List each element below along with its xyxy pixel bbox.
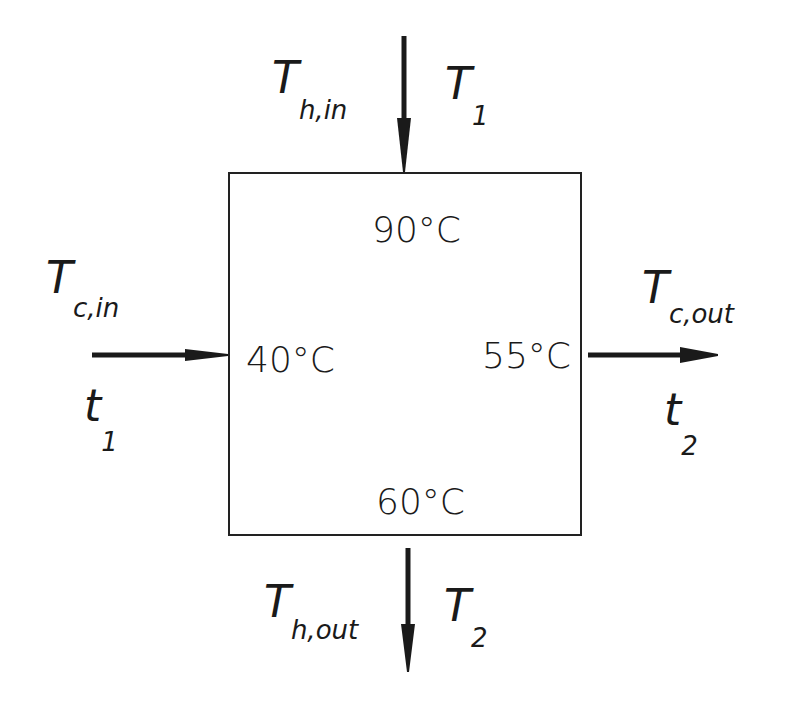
cold-outlet-arrow-icon [588, 347, 718, 363]
label-hot-inlet-alt: T1 [445, 62, 488, 106]
label-t2-sub: 2 [471, 623, 488, 653]
temp-cold-outlet: 55°C [482, 338, 571, 374]
hot-inlet-arrow-icon [397, 36, 411, 172]
label-t-small-2-sub: 2 [681, 431, 698, 461]
label-t-small-2-main: t [664, 384, 681, 435]
label-hot-outlet: Th,out [264, 580, 358, 624]
label-t-small-1-main: t [84, 380, 101, 431]
label-cold-outlet-main: T [642, 262, 669, 313]
label-cold-inlet-main: T [46, 252, 73, 303]
label-hot-inlet-sub: h,in [299, 95, 347, 125]
label-cold-inlet: Tc,in [46, 256, 119, 300]
temp-cold-inlet: 40°C [246, 342, 335, 378]
label-hot-inlet-main: T [272, 52, 299, 103]
label-hot-inlet: Th,in [272, 56, 347, 100]
label-t2-main: T [444, 580, 471, 631]
label-cold-outlet-sub: c,out [669, 299, 734, 329]
label-cold-outlet-alt: t2 [664, 388, 698, 432]
hot-outlet-arrow-icon [401, 548, 415, 672]
cold-inlet-arrow-icon [92, 349, 228, 361]
label-t1-main: T [445, 58, 472, 109]
temp-hot-outlet: 60°C [376, 484, 465, 520]
label-hot-outlet-alt: T2 [444, 584, 487, 628]
temp-hot-inlet: 90°C [372, 212, 461, 248]
label-cold-inlet-sub: c,in [73, 293, 119, 323]
label-hot-outlet-main: T [264, 576, 291, 627]
label-cold-outlet: Tc,out [642, 266, 734, 310]
label-t1-sub: 1 [472, 101, 489, 131]
label-t-small-1-sub: 1 [101, 427, 118, 457]
label-hot-outlet-sub: h,out [291, 615, 358, 645]
heat-exchanger-diagram: 90°C 40°C 55°C 60°C Th,in T1 Tc,in t1 Tc… [0, 0, 810, 716]
label-cold-inlet-alt: t1 [84, 384, 118, 428]
